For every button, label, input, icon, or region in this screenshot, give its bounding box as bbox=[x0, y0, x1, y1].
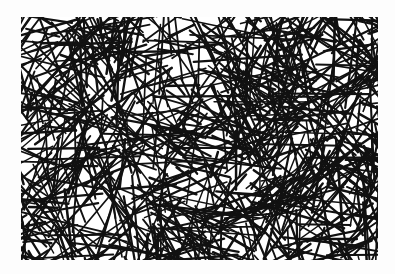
image-canvas bbox=[0, 0, 395, 274]
fiber-network-svg bbox=[21, 17, 378, 260]
fiber-network bbox=[21, 17, 378, 260]
